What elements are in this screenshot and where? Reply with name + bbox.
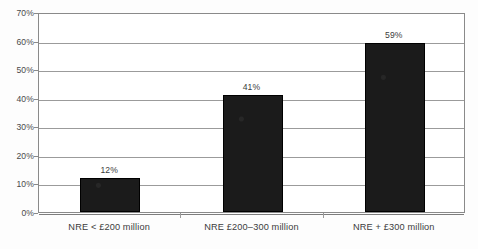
bar — [365, 43, 425, 212]
bar-value-label: 41% — [222, 82, 282, 92]
plot-area — [38, 13, 465, 213]
y-axis-tick-label: 60% — [0, 37, 34, 47]
y-axis-tick-label: 70% — [0, 8, 34, 18]
y-axis-tick-label: 40% — [0, 94, 34, 104]
bar — [223, 95, 283, 212]
gridline — [39, 214, 464, 215]
y-axis: 0%10%20%30%40%50%60%70% — [0, 13, 34, 213]
y-axis-tick-mark — [34, 213, 38, 214]
x-axis-category-label: NRE + £300 million — [323, 222, 465, 232]
x-axis-tick-mark — [323, 213, 324, 218]
y-axis-tick-label: 30% — [0, 122, 34, 132]
y-axis-tick-label: 0% — [0, 208, 34, 218]
x-axis-category-label: NRE £200–300 million — [180, 222, 322, 232]
y-axis-tick-label: 20% — [0, 151, 34, 161]
bar-value-label: 12% — [79, 165, 139, 175]
x-axis-category-label: NRE < £200 million — [38, 222, 180, 232]
bar — [80, 178, 140, 212]
bar-chart: 0%10%20%30%40%50%60%70% 12%NRE < £200 mi… — [0, 0, 478, 249]
x-axis-tick-mark — [180, 213, 181, 218]
bar-value-label: 59% — [364, 30, 424, 40]
y-axis-tick-label: 10% — [0, 179, 34, 189]
y-axis-tick-label: 50% — [0, 65, 34, 75]
